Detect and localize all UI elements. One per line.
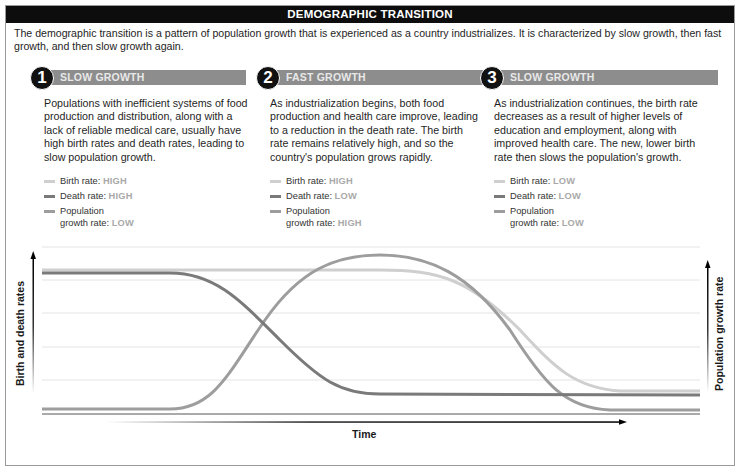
right-axis-arrow <box>707 267 709 392</box>
left-axis-label: Birth and death rates <box>14 281 26 386</box>
death-rate-curve <box>42 273 700 395</box>
left-axis-arrow <box>33 258 35 394</box>
time-axis-arrow <box>105 421 621 423</box>
right-arrowhead-icon <box>619 419 627 425</box>
x-axis-label: Time <box>352 428 376 440</box>
population-growth-curve <box>42 255 700 410</box>
up-arrowhead-icon <box>705 260 711 268</box>
right-axis-label: Population growth rate <box>713 277 725 391</box>
birth-rate-curve <box>42 270 700 391</box>
up-arrowhead-icon <box>31 251 37 259</box>
gridlines <box>42 247 700 380</box>
transition-chart <box>0 0 741 475</box>
